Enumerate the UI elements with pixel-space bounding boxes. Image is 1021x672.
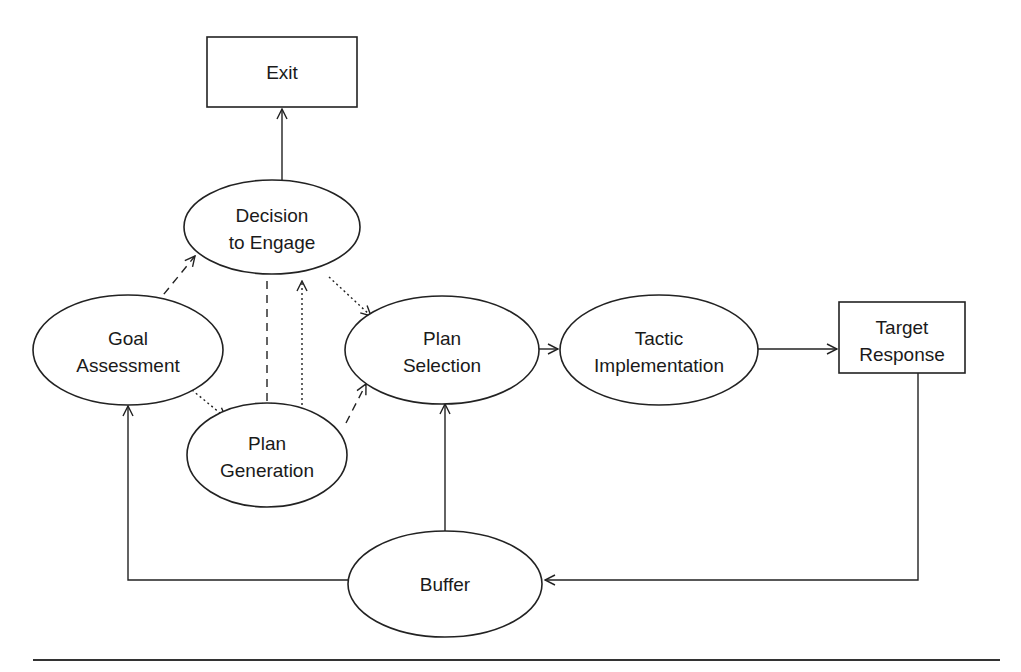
node-buffer: Buffer: [348, 531, 542, 637]
edge-decision-to-plan-selection: [329, 277, 371, 316]
goal-assessment-label-line2: Assessment: [76, 355, 180, 376]
target-response-label-line2: Response: [859, 344, 945, 365]
tactic-implementation-label-line1: Tactic: [635, 328, 684, 349]
node-target-response: Target Response: [839, 302, 965, 373]
exit-label: Exit: [266, 62, 298, 83]
decision-to-engage-label-line2: to Engage: [229, 232, 316, 253]
node-plan-generation: Plan Generation: [187, 403, 347, 507]
plan-generation-label-line2: Generation: [220, 460, 314, 481]
plan-generation-ellipse: [187, 403, 347, 507]
node-plan-selection: Plan Selection: [345, 296, 539, 404]
node-goal-assessment: Goal Assessment: [33, 295, 223, 405]
decision-to-engage-ellipse: [184, 180, 360, 274]
node-decision-to-engage: Decision to Engage: [184, 180, 360, 274]
plan-selection-ellipse: [345, 296, 539, 404]
edge-plan-generation-to-plan-selection: [346, 384, 366, 423]
tactic-implementation-label-line2: Implementation: [594, 355, 724, 376]
goal-assessment-ellipse: [33, 295, 223, 405]
plan-selection-label-line1: Plan: [423, 328, 461, 349]
tactic-implementation-ellipse: [560, 295, 758, 405]
plan-generation-label-line1: Plan: [248, 433, 286, 454]
plan-selection-label-line2: Selection: [403, 355, 481, 376]
node-tactic-implementation: Tactic Implementation: [560, 295, 758, 405]
edge-target-response-to-buffer: [545, 373, 918, 580]
node-exit: Exit: [207, 37, 357, 107]
decision-to-engage-label-line1: Decision: [236, 205, 309, 226]
target-response-label-line1: Target: [876, 317, 930, 338]
buffer-label: Buffer: [420, 574, 471, 595]
flow-diagram: Exit Decision to Engage Goal Assessment …: [0, 0, 1021, 672]
goal-assessment-label-line1: Goal: [108, 328, 148, 349]
